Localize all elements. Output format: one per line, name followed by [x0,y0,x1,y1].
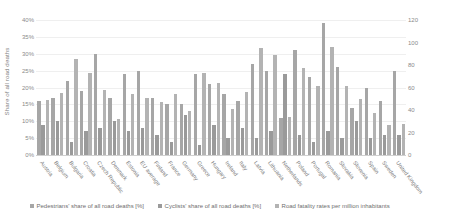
bar [283,74,286,155]
x-axis-tick-label: Hungary [207,157,221,201]
y-axis-left-tick-label: 25% [4,68,34,74]
x-axis-tick-label: Germany [178,157,192,201]
y-axis-right-tick-label: 0 [408,152,434,158]
bar-group [93,20,107,155]
bar-group [207,20,221,155]
x-axis-tick-label: Greece [193,157,207,201]
bar [379,101,382,155]
bar-group [321,20,335,155]
bar [217,83,220,155]
x-axis-tick-label: Portugal [306,157,320,201]
bar-group [50,20,64,155]
x-axis-tick-label: Latvia [250,157,264,201]
bar [265,71,268,155]
x-axis-tick-label: Lithuania [264,157,278,201]
y-axis-right-tick-label: 120 [408,17,434,23]
bar [322,23,325,155]
bar [241,128,244,155]
bar [74,59,77,155]
x-axis-tick-label: Italy [235,157,249,201]
x-axis-tick-label: Finland [150,157,164,201]
bar [46,100,49,155]
bar [365,88,368,156]
bar [66,81,69,155]
chart-legend: Pedestrians' share of all road deaths [%… [30,203,430,209]
bar [383,135,386,155]
bar [336,67,339,155]
y-axis-left-tick-label: 20% [4,85,34,91]
x-axis-tick-label-text: United Kingdom [395,160,424,195]
x-axis-tick-label: Sweden [378,157,392,201]
bar [350,108,353,155]
x-axis-tick-label: Poland [292,157,306,201]
x-axis-tick-label: Romania [321,157,335,201]
y-axis-left-tick-label: 35% [4,34,34,40]
bar [302,68,305,155]
bar [127,131,130,155]
x-axis-tick-label: Ireland [221,157,235,201]
legend-item[interactable]: Road fatality rates per million inhabita… [275,203,390,209]
bar-group [178,20,192,155]
y-axis-left-tick-label: 5% [4,135,34,141]
bar-group [136,20,150,155]
bar [226,138,229,155]
bar [194,74,197,155]
bar [198,145,201,155]
bar [80,91,83,155]
bar [308,77,311,155]
bar [60,93,63,155]
bar [316,86,319,155]
bar [141,128,144,155]
legend-swatch-icon [30,204,34,208]
bar [212,125,215,155]
y-axis-left-tick-label: 30% [4,51,34,57]
y-axis-left-tick-label: 15% [4,101,34,107]
bar [170,142,173,156]
y-axis-left-tick-label: 40% [4,17,34,23]
bar [259,48,262,155]
bar-group [292,20,306,155]
bar [103,90,106,155]
legend-item[interactable]: Cyclists' share of all road deaths [%] [158,203,261,209]
plot-area [36,20,406,155]
x-axis-tick-label: Estonia [121,157,135,201]
bar [330,47,333,155]
bar-group [79,20,93,155]
x-axis-tick-label: France [164,157,178,201]
bar [359,99,362,155]
bar [298,135,301,155]
bar [340,138,343,155]
x-axis-tick-label: Slovakia [335,157,349,201]
bar [165,104,168,155]
bar [251,64,254,155]
bar [208,84,211,155]
bar [288,117,291,155]
bar [393,71,396,155]
bar-group [107,20,121,155]
bar [355,121,358,155]
bar [279,118,282,155]
bar [231,109,234,155]
bar-group [306,20,320,155]
bar [51,98,54,155]
bar [269,131,272,155]
bar [202,73,205,155]
legend-item[interactable]: Pedestrians' share of all road deaths [%… [30,203,144,209]
bar [113,121,116,155]
bar-group [64,20,78,155]
bar [373,113,376,155]
x-axis-tick-label: Austria [36,157,50,201]
bar-group [264,20,278,155]
bar-group [335,20,349,155]
bar [88,73,91,155]
bar [155,135,158,155]
x-axis-tick-label: Spain [363,157,377,201]
bar-group [235,20,249,155]
legend-swatch-icon [275,204,279,208]
x-axis-tick-label: Belgium [50,157,64,201]
bar [255,138,258,155]
bar [137,71,140,155]
bar [151,98,154,155]
bar [236,101,239,155]
bar [402,124,405,156]
